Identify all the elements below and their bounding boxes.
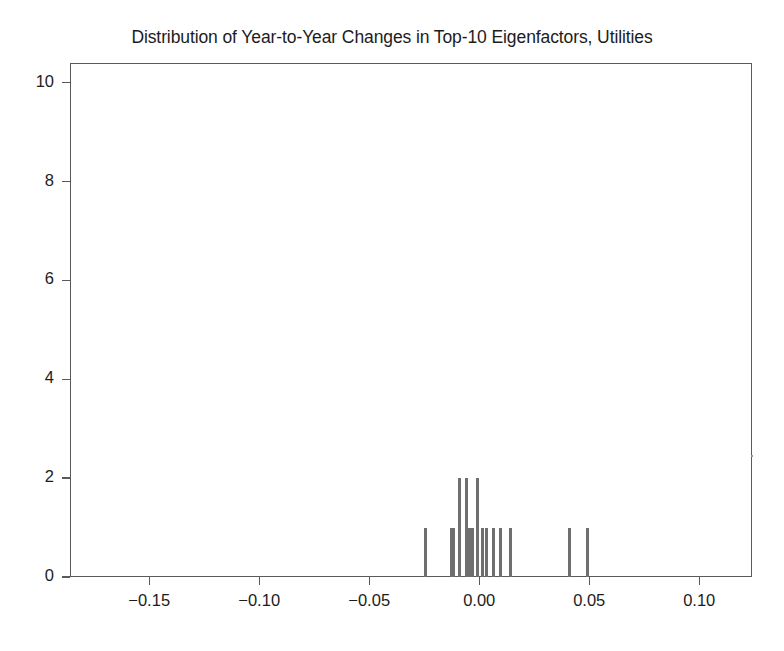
histogram-bar bbox=[458, 478, 461, 577]
y-axis-tick-mark bbox=[62, 280, 70, 281]
x-axis-tick-label: −0.10 bbox=[214, 591, 304, 610]
histogram-bar bbox=[586, 528, 589, 577]
histogram-bar bbox=[485, 528, 488, 577]
x-axis-tick-mark bbox=[259, 577, 260, 585]
histogram-bar bbox=[492, 528, 495, 577]
y-axis-tick-label: 6 bbox=[0, 269, 54, 288]
plot-area bbox=[70, 63, 752, 577]
stray-speck bbox=[751, 455, 753, 457]
histogram-bar bbox=[424, 528, 427, 577]
y-axis-tick-label: 4 bbox=[0, 368, 54, 387]
y-axis-tick-mark bbox=[62, 477, 70, 478]
histogram-bar bbox=[499, 528, 502, 577]
histogram-bar bbox=[476, 478, 479, 577]
histogram-bar bbox=[568, 528, 571, 577]
y-axis-tick-label: 2 bbox=[0, 467, 54, 486]
y-axis-tick-label: 0 bbox=[0, 566, 54, 585]
x-axis-tick-mark bbox=[479, 577, 480, 585]
x-axis-tick-mark bbox=[699, 577, 700, 585]
chart-title: Distribution of Year-to-Year Changes in … bbox=[0, 27, 784, 48]
x-axis-tick-label: 0.05 bbox=[544, 591, 634, 610]
chart-figure: Distribution of Year-to-Year Changes in … bbox=[0, 0, 784, 651]
histogram-bar bbox=[509, 528, 512, 577]
y-axis-tick-mark bbox=[62, 82, 70, 83]
y-axis-tick-label: 8 bbox=[0, 171, 54, 190]
histogram-bar bbox=[471, 528, 474, 577]
x-axis-tick-label: 0.00 bbox=[434, 591, 524, 610]
x-axis-tick-label: −0.05 bbox=[324, 591, 414, 610]
histogram-bar bbox=[481, 528, 484, 577]
histogram-bar bbox=[452, 528, 455, 577]
x-axis-tick-mark bbox=[369, 577, 370, 585]
x-axis-tick-mark bbox=[589, 577, 590, 585]
y-axis-tick-mark bbox=[62, 181, 70, 182]
y-axis-tick-mark bbox=[62, 576, 70, 577]
x-axis-tick-label: 0.10 bbox=[654, 591, 744, 610]
x-axis-tick-label: −0.15 bbox=[104, 591, 194, 610]
y-axis-tick-mark bbox=[62, 379, 70, 380]
y-axis-tick-label: 10 bbox=[0, 72, 54, 91]
x-axis-tick-mark bbox=[149, 577, 150, 585]
